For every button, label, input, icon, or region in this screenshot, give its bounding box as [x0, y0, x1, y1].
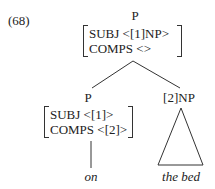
np-triangle: [158, 108, 203, 165]
left-subj-feature: SUBJ <[1]>: [50, 107, 127, 122]
root-avm: SUBJ <[1]NP> COMPS <>: [83, 25, 182, 57]
left-daughter-avm: SUBJ <[1]> COMPS <[2]>: [44, 106, 133, 138]
root-subj-feature: SUBJ <[1]NP>: [89, 26, 176, 41]
right-daughter-category: [2]NP: [163, 91, 195, 105]
left-daughter-category: P: [84, 91, 91, 105]
root-comps-feature: COMPS <>: [89, 41, 176, 56]
word-on: on: [85, 170, 98, 184]
branch-left: [92, 61, 133, 88]
left-comps-feature: COMPS <[2]>: [50, 122, 127, 137]
branch-right: [133, 61, 180, 88]
word-the-bed: the bed: [162, 170, 200, 184]
root-category: P: [131, 9, 138, 23]
example-number: (68): [8, 14, 30, 28]
